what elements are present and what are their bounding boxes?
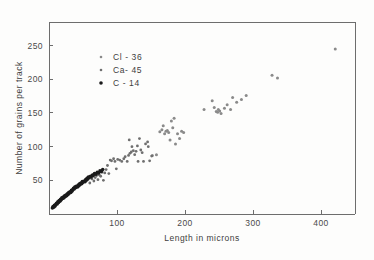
y-tick-label: 150 <box>28 108 43 118</box>
data-point <box>155 153 158 156</box>
data-point <box>220 112 223 115</box>
data-point <box>114 160 117 163</box>
data-point <box>112 157 115 160</box>
legend-label: Ca- 45 <box>113 65 142 75</box>
x-tick-label: 300 <box>245 218 260 228</box>
legend-label: C - 14 <box>113 78 140 88</box>
plot-frame <box>49 22 355 214</box>
y-tick-label: 50 <box>33 175 43 185</box>
data-point <box>182 131 185 134</box>
data-point <box>110 159 113 162</box>
data-point-layer <box>51 47 337 209</box>
data-point <box>174 142 177 145</box>
data-point <box>124 155 127 158</box>
x-tick-label: 400 <box>313 218 328 228</box>
data-point <box>203 108 206 111</box>
y-axis-label: Number of grains per track <box>14 61 24 175</box>
data-point <box>167 131 170 134</box>
data-point <box>240 98 243 101</box>
data-point <box>101 168 105 172</box>
data-point <box>173 117 176 120</box>
data-point <box>211 99 214 102</box>
series-c-14 <box>51 168 105 210</box>
x-tick-label: 100 <box>109 218 124 228</box>
legend-marker <box>99 81 103 85</box>
data-point <box>144 143 147 146</box>
data-point <box>148 159 151 162</box>
data-point <box>102 179 105 182</box>
figure-canvas: 100200300400 50100150200250 Cl - 36Ca- 4… <box>0 0 374 260</box>
data-point <box>126 160 129 163</box>
data-point <box>133 153 136 156</box>
data-point <box>147 145 150 148</box>
data-point <box>223 107 226 110</box>
data-point <box>92 180 95 183</box>
x-tick-label: 200 <box>177 218 192 228</box>
y-tick-label: 200 <box>28 74 43 84</box>
data-point <box>135 150 138 153</box>
legend-marker <box>100 56 103 59</box>
data-point <box>245 94 248 97</box>
data-point <box>213 106 216 109</box>
data-point <box>334 47 337 50</box>
series-cl-36 <box>151 47 337 156</box>
data-point <box>171 126 174 129</box>
data-point <box>146 141 149 144</box>
data-point <box>160 128 163 131</box>
data-point <box>120 160 123 163</box>
data-point <box>138 137 141 140</box>
data-point <box>107 172 110 175</box>
x-axis-ticks: 100200300400 <box>109 210 328 228</box>
data-point <box>132 149 135 152</box>
data-point <box>137 160 140 163</box>
legend: Cl - 36Ca- 45C - 14 <box>99 52 142 88</box>
data-point <box>106 164 109 167</box>
data-point <box>97 178 100 181</box>
data-point <box>229 108 232 111</box>
data-point <box>142 160 145 163</box>
data-point <box>163 132 166 135</box>
data-point <box>162 124 165 127</box>
data-point <box>231 96 234 99</box>
data-point <box>170 120 173 123</box>
data-point <box>176 132 179 135</box>
data-point <box>276 76 279 79</box>
legend-label: Cl - 36 <box>113 52 142 62</box>
data-point <box>131 145 134 148</box>
data-point <box>128 138 131 141</box>
data-point <box>178 137 181 140</box>
y-tick-label: 100 <box>28 142 43 152</box>
data-point <box>226 103 229 106</box>
legend-marker <box>100 69 103 72</box>
x-axis-label: Length in microns <box>164 233 240 243</box>
data-point <box>88 182 91 185</box>
data-point <box>235 101 238 104</box>
data-point <box>139 149 142 152</box>
data-point <box>271 74 274 77</box>
data-point <box>103 172 106 175</box>
data-point <box>141 151 144 154</box>
y-tick-label: 250 <box>28 41 43 51</box>
data-point <box>150 155 153 158</box>
data-point <box>105 168 108 171</box>
data-point <box>99 175 102 178</box>
data-point <box>136 145 139 148</box>
scatter-plot: 100200300400 50100150200250 Cl - 36Ca- 4… <box>0 0 374 260</box>
data-point <box>115 167 118 170</box>
series-ca-45 <box>88 137 153 184</box>
data-point <box>218 109 221 112</box>
data-point <box>169 138 172 141</box>
